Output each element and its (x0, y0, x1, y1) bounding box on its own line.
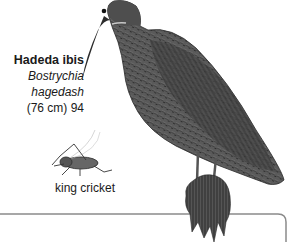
species-scientific-name-epithet: hagedash (14, 84, 84, 100)
frame-line (0, 214, 286, 242)
species-common-name: Hadeda ibis (14, 52, 84, 68)
bill (82, 16, 110, 80)
prey-label: king cricket (55, 181, 115, 195)
illustration (0, 0, 292, 242)
species-scientific-name-genus: Bostrychia (14, 68, 84, 84)
eye-icon (102, 9, 107, 14)
species-size-and-number: (76 cm) 94 (14, 100, 84, 116)
perch-stump (186, 175, 231, 242)
species-label: Hadeda ibis Bostrychia hagedash (76 cm) … (14, 52, 84, 116)
hadeda-ibis-drawing (82, 1, 284, 185)
king-cricket-drawing (52, 130, 112, 176)
